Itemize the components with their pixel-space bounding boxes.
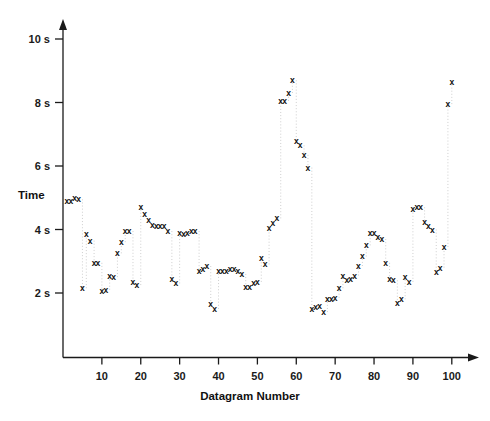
data-point-marker: x <box>173 278 178 288</box>
data-point-marker: x <box>119 237 124 247</box>
x-tick-group: 102030405060708090100 <box>96 358 461 382</box>
data-point-marker: x <box>255 277 260 287</box>
data-point-marker: x <box>263 259 268 269</box>
data-point-marker: x <box>379 234 384 244</box>
data-point-marker: x <box>391 275 396 285</box>
data-point-marker: x <box>302 150 307 160</box>
y-tick-label: 6 s <box>35 160 50 172</box>
data-point-marker: x <box>399 294 404 304</box>
data-point-marker: x <box>88 236 93 246</box>
y-axis-arrowhead <box>59 19 67 30</box>
data-point-marker: x <box>127 226 132 236</box>
x-tick-label: 40 <box>212 370 224 382</box>
data-point-marker: x <box>352 271 357 281</box>
data-point-marker: x <box>321 307 326 317</box>
data-point-marker: x <box>383 258 388 268</box>
y-axis-title: Time <box>18 189 45 201</box>
data-point-marker: x <box>96 258 101 268</box>
plot-canvas: 2 s4 s6 s8 s10 s 102030405060708090100 x… <box>0 0 490 421</box>
data-point-marker: x <box>446 99 451 109</box>
x-axis-arrowhead <box>468 354 479 362</box>
data-point-marker: x <box>333 293 338 303</box>
data-point-marker: x <box>274 213 279 223</box>
data-markers-group: xxxxxxxxxxxxxxxxxxxxxxxxxxxxxxxxxxxxxxxx… <box>65 75 455 317</box>
data-point-marker: x <box>442 242 447 252</box>
data-point-marker: x <box>80 283 85 293</box>
data-point-marker: x <box>449 77 454 87</box>
y-tick-label: 4 s <box>35 224 50 236</box>
y-tick-group: 2 s4 s6 s8 s10 s <box>29 33 63 299</box>
x-tick-label: 50 <box>251 370 263 382</box>
data-point-marker: x <box>193 226 198 236</box>
data-point-marker: x <box>418 202 423 212</box>
data-point-marker: x <box>111 272 116 282</box>
data-point-marker: x <box>290 75 295 85</box>
data-point-marker: x <box>364 240 369 250</box>
data-point-marker: x <box>239 269 244 279</box>
data-point-marker: x <box>204 261 209 271</box>
data-point-marker: x <box>115 248 120 258</box>
x-tick-label: 10 <box>96 370 108 382</box>
axes-group <box>59 19 479 362</box>
data-point-marker: x <box>103 285 108 295</box>
x-tick-label: 100 <box>443 370 461 382</box>
data-point-marker: x <box>430 225 435 235</box>
x-tick-label: 70 <box>329 370 341 382</box>
x-tick-label: 30 <box>174 370 186 382</box>
y-tick-label: 8 s <box>35 97 50 109</box>
x-tick-label: 60 <box>290 370 302 382</box>
data-point-marker: x <box>166 226 171 236</box>
data-point-marker: x <box>438 263 443 273</box>
data-point-marker: x <box>407 277 412 287</box>
x-tick-label: 90 <box>407 370 419 382</box>
data-point-marker: x <box>360 251 365 261</box>
data-point-marker: x <box>76 194 81 204</box>
connector-lines-group <box>82 80 451 312</box>
data-point-marker: x <box>286 88 291 98</box>
scatter-plot-figure: 2 s4 s6 s8 s10 s 102030405060708090100 x… <box>0 0 490 421</box>
y-tick-label: 10 s <box>29 33 50 45</box>
data-point-marker: x <box>212 304 217 314</box>
x-tick-label: 20 <box>135 370 147 382</box>
data-point-marker: x <box>356 261 361 271</box>
data-point-marker: x <box>337 283 342 293</box>
data-point-marker: x <box>306 163 311 173</box>
x-tick-label: 80 <box>368 370 380 382</box>
x-axis-title: Datagram Number <box>200 390 300 402</box>
data-point-marker: x <box>135 280 140 290</box>
y-tick-label: 2 s <box>35 287 50 299</box>
data-point-marker: x <box>298 140 303 150</box>
